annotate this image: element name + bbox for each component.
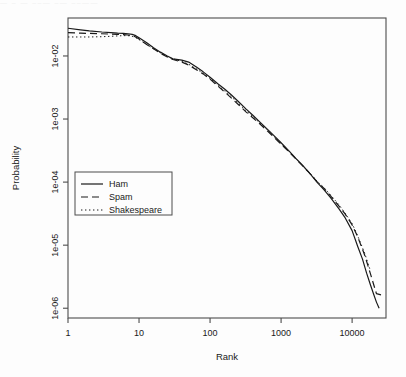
plot-frame (68, 18, 386, 318)
series-line-spam (68, 33, 383, 296)
y-tick-label: 1e-04 (50, 171, 60, 194)
x-tick-label: 10 (134, 328, 144, 338)
y-tick-label: 1e-05 (50, 234, 60, 257)
x-tick-label: 1 (65, 328, 70, 338)
legend-label-ham: Ham (109, 179, 128, 189)
zipf-log-log-plot: 110100100010000Rank1e-021e-031e-041e-051… (0, 0, 406, 377)
x-tick-label: 1000 (271, 328, 291, 338)
series-line-ham (68, 28, 379, 308)
y-tick-label: 1e-02 (50, 44, 60, 67)
figure-container: — – — ––— –— ––—— 110100100010000Rank1e-… (0, 0, 406, 377)
legend-label-shakespeare: Shakespeare (109, 205, 162, 215)
x-tick-label: 10000 (340, 328, 365, 338)
y-axis-title: Probability (10, 146, 21, 191)
series-line-shakespeare (68, 36, 370, 271)
y-tick-label: 1e-03 (50, 108, 60, 131)
legend-label-spam: Spam (109, 192, 133, 202)
x-axis-title: Rank (216, 351, 238, 362)
y-tick-label: 1e-06 (50, 297, 60, 320)
x-tick-label: 100 (203, 328, 218, 338)
